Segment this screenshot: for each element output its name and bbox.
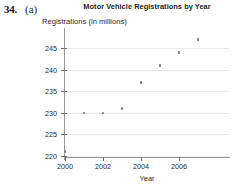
x-tick-mark [103,157,104,161]
figure-container: 34. (a) Motor Vehicle Registrations by Y… [0,0,234,188]
y-tick-label: 225 [33,130,57,139]
y-tick-label: 235 [33,87,57,96]
x-tick-mark [141,157,142,161]
x-tick-label: 2004 [126,162,156,171]
data-point [102,112,105,115]
y-tick-mark [61,134,67,135]
data-point [178,51,181,54]
y-tick-label: 245 [33,44,57,53]
gridline [65,48,229,49]
y-tick-label: 240 [33,66,57,75]
data-point [64,150,67,153]
y-tick-mark [61,48,67,49]
data-point [140,81,143,84]
y-tick-mark [61,113,67,114]
x-axis-line [64,157,230,158]
x-tick-mark [65,157,66,161]
x-tick-label: 2006 [164,162,194,171]
x-tick-label: 2000 [50,162,80,171]
data-point [121,107,124,110]
gridline [65,113,229,114]
data-point [197,38,200,41]
data-point [159,64,162,67]
y-tick-mark [61,156,67,157]
gridline [65,134,229,135]
y-tick-mark [61,91,67,92]
y-tick-label: 220 [33,152,57,161]
y-tick-label: 230 [33,109,57,118]
gridline [65,91,229,92]
scatter-plot: 220225230235240245 2000200220042006 [0,0,234,188]
x-axis-label: Year [65,174,229,183]
gridline [65,70,229,71]
x-tick-mark [179,157,180,161]
data-point [83,112,86,115]
x-tick-label: 2002 [88,162,118,171]
y-tick-mark [61,70,67,71]
